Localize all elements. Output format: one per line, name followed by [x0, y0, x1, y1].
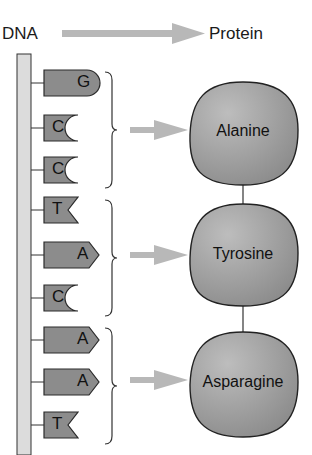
nucleotides: [31, 70, 100, 438]
dna-label: DNA: [2, 24, 38, 44]
nucleotide-A: [44, 327, 99, 353]
dna-backbone: [17, 54, 31, 455]
nucleotide-base-label: T: [52, 199, 62, 219]
amino-acid-label: Asparagine: [178, 373, 308, 391]
nucleotide-base-label: C: [52, 287, 64, 307]
nucleotide-base-label: T: [52, 414, 62, 434]
nucleotide-A: [44, 369, 99, 395]
amino-acid-label: Tyrosine: [178, 245, 308, 263]
amino-acid-label: Alanine: [178, 122, 308, 140]
nucleotide-base-label: C: [52, 159, 64, 179]
nucleotide-G: [44, 70, 100, 96]
dna-to-protein-arrow: [62, 23, 205, 44]
protein-label: Protein: [209, 24, 263, 44]
nucleotide-base-label: C: [52, 117, 64, 137]
codon-braces: [105, 72, 117, 444]
nucleotide-base-label: A: [77, 244, 88, 264]
nucleotide-base-label: A: [77, 329, 88, 349]
nucleotide-base-label: A: [77, 371, 88, 391]
nucleotide-A: [44, 242, 99, 268]
nucleotide-base-label: G: [77, 72, 90, 92]
